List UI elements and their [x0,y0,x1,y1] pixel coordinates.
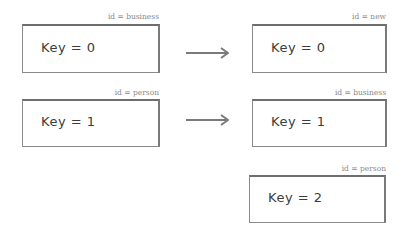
arrow-right-icon [184,113,232,127]
id-label: id = person [115,88,159,97]
key-box: Key = 0 [252,24,387,73]
arrow-right-icon [184,46,232,60]
key-box: Key = 1 [252,99,387,147]
key-box: Key = 2 [249,175,386,223]
key-label: Key = 2 [268,190,323,205]
key-label: Key = 1 [271,114,326,129]
id-label: id = business [335,88,386,97]
key-label: Key = 0 [41,40,96,55]
id-label: id = business [108,12,159,21]
key-box: Key = 1 [22,99,160,147]
key-box: Key = 0 [22,24,160,73]
id-label: id = new [352,12,386,21]
id-label: id = person [342,164,386,173]
key-label: Key = 0 [271,40,326,55]
key-label: Key = 1 [41,114,96,129]
